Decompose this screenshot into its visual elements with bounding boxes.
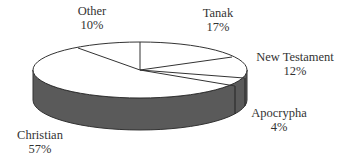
label-tanak: Tanak 17% <box>196 6 240 34</box>
label-nt-name: New Testament <box>250 50 340 64</box>
label-other-name: Other <box>72 4 112 18</box>
label-tanak-name: Tanak <box>196 6 240 20</box>
label-nt-value: 12% <box>250 64 340 78</box>
label-tanak-value: 17% <box>196 20 240 34</box>
label-other-value: 10% <box>72 18 112 32</box>
label-other: Other 10% <box>72 4 112 32</box>
label-christian-name: Christian <box>14 128 66 142</box>
label-apocrypha-name: Apocrypha <box>246 106 312 120</box>
label-new-testament: New Testament 12% <box>250 50 340 78</box>
label-apocrypha-value: 4% <box>246 120 312 134</box>
label-apocrypha: Apocrypha 4% <box>246 106 312 134</box>
label-christian: Christian 57% <box>14 128 66 156</box>
label-christian-value: 57% <box>14 142 66 156</box>
